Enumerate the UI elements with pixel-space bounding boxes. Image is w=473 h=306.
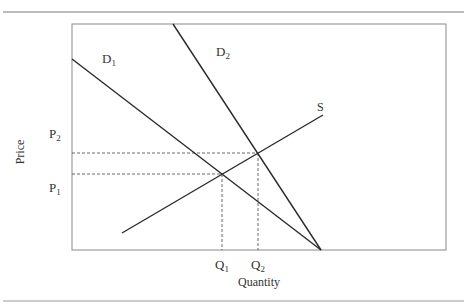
demand-curve-d1 xyxy=(72,59,321,250)
p2-label: P2 xyxy=(49,127,61,143)
p1-label: P1 xyxy=(49,181,61,197)
d2-label: D2 xyxy=(216,45,230,61)
x-axis-label: Quantity xyxy=(238,276,280,288)
s-label: S xyxy=(317,101,324,113)
demand-curve-d2 xyxy=(173,24,321,250)
plot-frame xyxy=(72,24,446,250)
d1-label: D1 xyxy=(102,52,116,68)
q2-label: Q2 xyxy=(251,258,265,274)
supply-demand-diagram xyxy=(0,0,473,306)
y-axis-label: Price xyxy=(13,140,28,165)
q1-label: Q1 xyxy=(215,258,229,274)
